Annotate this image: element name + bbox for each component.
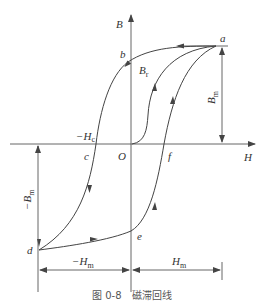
arrow-top-left-icon xyxy=(176,44,184,49)
hysteresis-diagram: B H O a b c d e f Br −Hc Bm −Bm −Hm Hm 图… xyxy=(0,0,264,305)
coercivity-label: −Hc xyxy=(76,130,95,144)
hm-label: Hm xyxy=(171,255,187,270)
descending-branch xyxy=(39,46,216,250)
remanence-label: Br xyxy=(139,64,149,79)
b-axis-label: B xyxy=(116,18,123,30)
point-c-label: c xyxy=(84,150,89,162)
figure-caption: 图 0-8磁滞回线 xyxy=(92,289,172,301)
point-f-label: f xyxy=(168,150,173,162)
origin-label: O xyxy=(118,150,126,162)
point-d-label: d xyxy=(27,244,33,256)
point-a-label: a xyxy=(220,32,226,44)
arrow-down-cd-icon xyxy=(87,185,92,193)
hysteresis-loop-figure: B H O a b c d e f Br −Hc Bm −Bm −Hm Hm 图… xyxy=(0,0,264,305)
point-e-label: e xyxy=(137,230,142,242)
arrow-up-ef-icon xyxy=(152,202,157,210)
ascending-branch xyxy=(39,46,216,250)
neg-hm-label: −Hm xyxy=(72,255,94,270)
arrow-up-fa-icon xyxy=(170,96,175,104)
bm-label: Bm xyxy=(205,90,220,104)
point-b-label: b xyxy=(120,48,126,60)
h-axis-label: H xyxy=(243,151,253,163)
arrow-up-initial-icon xyxy=(152,83,157,91)
initial-magnetization-curve xyxy=(132,46,216,144)
neg-bm-label: −Bm xyxy=(21,189,36,210)
